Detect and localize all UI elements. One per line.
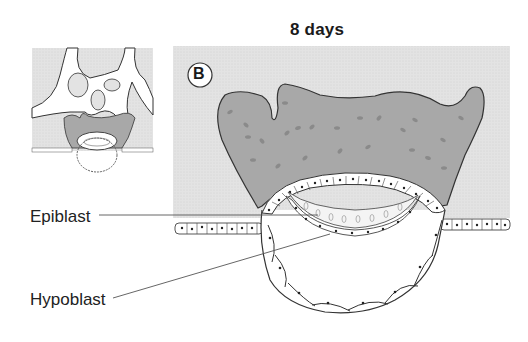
embryo-diagram	[0, 0, 528, 342]
panel-b	[99, 46, 510, 313]
panel-label-text: B	[193, 65, 205, 83]
inset-diagram	[32, 48, 153, 172]
